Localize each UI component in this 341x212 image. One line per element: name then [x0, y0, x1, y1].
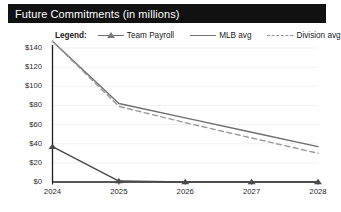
- y-axis-tick-label: $0: [16, 177, 42, 186]
- x-axis-tick-label: 2028: [298, 187, 338, 196]
- y-axis-tick-label: $140: [16, 43, 42, 52]
- x-axis-tick-label: 2025: [99, 187, 139, 196]
- series-line-mlb-avg: [53, 41, 319, 146]
- y-axis-tick-label: $20: [16, 158, 42, 167]
- x-axis-tick-label: 2026: [165, 187, 205, 196]
- series-line-division-avg: [53, 41, 319, 153]
- data-point-marker: [49, 143, 57, 148]
- y-axis-tick-label: $100: [16, 81, 42, 90]
- y-axis-tick-label: $120: [16, 62, 42, 71]
- x-axis-tick-label: 2024: [33, 187, 73, 196]
- y-axis-tick-label: $40: [16, 139, 42, 148]
- y-axis-tick-label: $80: [16, 100, 42, 109]
- x-axis-tick-label: 2027: [232, 187, 272, 196]
- series-line-team-payroll: [53, 147, 319, 182]
- y-axis-tick-label: $60: [16, 120, 42, 129]
